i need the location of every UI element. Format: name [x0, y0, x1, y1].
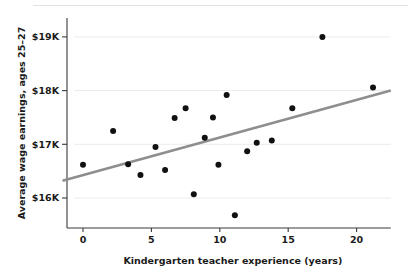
data-point-7 [183, 105, 189, 111]
data-point-9 [202, 135, 208, 141]
data-point-15 [254, 140, 260, 146]
x-tick-label-20: 20 [350, 234, 364, 245]
data-point-19 [370, 84, 376, 90]
x-axis-title: Kindergarten teacher experience (years) [123, 255, 342, 266]
data-point-17 [289, 105, 295, 111]
data-point-3 [137, 172, 143, 178]
top-divider-rule [33, 5, 408, 6]
chart-figure: $16K$17K$18K$19K05101520Kindergarten tea… [0, 0, 413, 278]
data-point-2 [125, 161, 131, 167]
data-point-1 [110, 128, 116, 134]
data-point-13 [232, 212, 238, 218]
x-tick-label-10: 10 [213, 234, 227, 245]
data-point-18 [319, 34, 325, 40]
data-point-10 [210, 114, 216, 120]
data-point-6 [172, 115, 178, 121]
data-point-8 [191, 191, 197, 197]
data-point-14 [244, 148, 250, 154]
y-tick-label-$18K: $18K [32, 85, 60, 96]
y-axis-title: Average wage earnings, ages 25–27 [16, 27, 27, 220]
regression-fit-line [62, 91, 390, 181]
data-point-4 [153, 144, 159, 150]
data-point-11 [215, 162, 221, 168]
data-point-12 [224, 92, 230, 98]
data-point-5 [162, 167, 168, 173]
y-tick-label-$16K: $16K [32, 192, 60, 203]
x-tick-label-0: 0 [80, 234, 87, 245]
x-tick-label-15: 15 [282, 234, 295, 245]
y-tick-label-$19K: $19K [32, 31, 60, 42]
data-point-16 [269, 138, 275, 144]
data-point-0 [80, 162, 86, 168]
y-tick-label-$17K: $17K [32, 139, 60, 150]
x-tick-label-5: 5 [148, 234, 155, 245]
scatter-plot-canvas: $16K$17K$18K$19K05101520Kindergarten tea… [0, 0, 413, 278]
